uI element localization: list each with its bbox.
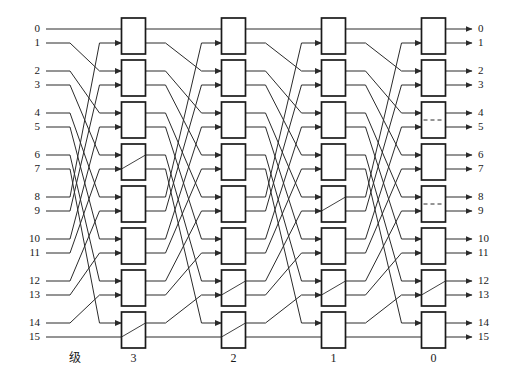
switch-box[interactable]: [322, 18, 346, 54]
interstage-wire: [246, 85, 322, 211]
input-wire: [46, 155, 122, 281]
switch-box[interactable]: [422, 144, 446, 180]
switch-box-outline: [322, 228, 346, 264]
switch-box[interactable]: [222, 60, 246, 96]
interstage-wire: [346, 43, 422, 197]
interstage-wire: [146, 85, 222, 211]
output-port-label-12: 12: [478, 275, 504, 286]
switch-box[interactable]: [322, 60, 346, 96]
switch-box[interactable]: [422, 228, 446, 264]
interstage-wire: [346, 253, 422, 295]
input-port-label-12: 12: [14, 275, 40, 286]
output-port-label-4: 4: [478, 107, 504, 118]
stage-axis-caption: 级: [60, 352, 90, 364]
output-port-label-8: 8: [478, 191, 504, 202]
interstage-wire: [346, 127, 422, 239]
switch-box[interactable]: [322, 186, 346, 222]
interstage-wire: [146, 43, 222, 71]
input-port-label-14: 14: [14, 317, 40, 328]
switch-box[interactable]: [222, 228, 246, 264]
interstage-wire: [246, 43, 322, 71]
input-port-label-4: 4: [14, 107, 40, 118]
interstage-wire: [246, 253, 322, 295]
switch-box[interactable]: [222, 312, 246, 348]
switch-box[interactable]: [422, 270, 446, 306]
switch-box-outline: [122, 270, 146, 306]
input-port-label-11: 11: [14, 247, 40, 258]
interstage-wire: [346, 295, 422, 323]
switch-box-outline: [122, 60, 146, 96]
network-diagram-figure: 0123456789101112131415 01234567891011121…: [0, 0, 511, 381]
interstage-wire: [246, 211, 322, 281]
output-port-label-6: 6: [478, 149, 504, 160]
output-port-label-1: 1: [478, 37, 504, 48]
network-svg: [0, 0, 511, 381]
interstage-wire: [246, 155, 322, 281]
stage-label-0: 0: [419, 352, 449, 364]
switch-box-outline: [222, 186, 246, 222]
input-port-label-13: 13: [14, 289, 40, 300]
input-wire: [46, 85, 122, 211]
interstage-wire: [246, 127, 322, 239]
output-port-label-11: 11: [478, 247, 504, 258]
switch-box[interactable]: [122, 18, 146, 54]
switch-box[interactable]: [422, 60, 446, 96]
switch-box[interactable]: [322, 102, 346, 138]
switch-box-outline: [322, 144, 346, 180]
switch-box[interactable]: [322, 228, 346, 264]
switch-box[interactable]: [322, 144, 346, 180]
switch-box[interactable]: [122, 270, 146, 306]
stage-label-3: 3: [119, 352, 149, 364]
output-port-label-9: 9: [478, 205, 504, 216]
switch-box[interactable]: [322, 270, 346, 306]
switch-box[interactable]: [222, 186, 246, 222]
input-port-label-0: 0: [14, 23, 40, 34]
input-port-label-3: 3: [14, 79, 40, 90]
interstage-wire: [146, 211, 222, 281]
switch-box[interactable]: [122, 144, 146, 180]
output-port-label-15: 15: [478, 331, 504, 342]
switch-box-outline: [122, 102, 146, 138]
switch-box-outline: [222, 144, 246, 180]
switch-box[interactable]: [422, 102, 446, 138]
output-port-label-7: 7: [478, 163, 504, 174]
switch-box[interactable]: [122, 228, 146, 264]
switch-box[interactable]: [222, 270, 246, 306]
switch-box-outline: [422, 18, 446, 54]
switch-box-outline: [222, 60, 246, 96]
switch-box[interactable]: [222, 144, 246, 180]
switch-box[interactable]: [122, 312, 146, 348]
switch-box[interactable]: [122, 186, 146, 222]
switch-box[interactable]: [122, 102, 146, 138]
switch-box-outline: [122, 186, 146, 222]
input-wire: [46, 295, 122, 323]
output-port-label-13: 13: [478, 289, 504, 300]
interstage-wire: [246, 295, 322, 323]
switch-box-outline: [122, 18, 146, 54]
switch-box-outline: [422, 228, 446, 264]
switch-box[interactable]: [422, 18, 446, 54]
input-port-label-5: 5: [14, 121, 40, 132]
switch-box[interactable]: [422, 312, 446, 348]
interstage-wire: [146, 43, 222, 197]
switch-box[interactable]: [322, 312, 346, 348]
output-port-label-2: 2: [478, 65, 504, 76]
switch-box[interactable]: [222, 102, 246, 138]
switch-box[interactable]: [222, 18, 246, 54]
switch-box[interactable]: [422, 186, 446, 222]
switch-box[interactable]: [122, 60, 146, 96]
input-wire: [46, 127, 122, 239]
interstage-wire: [146, 295, 222, 323]
output-port-label-0: 0: [478, 23, 504, 34]
switch-box-outline: [222, 102, 246, 138]
input-port-label-15: 15: [14, 331, 40, 342]
output-port-label-14: 14: [478, 317, 504, 328]
input-wire: [46, 71, 122, 113]
stage-label-2: 2: [219, 352, 249, 364]
interstage-wire: [346, 71, 422, 113]
interstage-wire: [146, 71, 222, 113]
interstage-wire: [146, 127, 222, 239]
switch-box-outline: [322, 18, 346, 54]
switch-box-outline: [322, 312, 346, 348]
interstage-wire: [246, 71, 322, 113]
